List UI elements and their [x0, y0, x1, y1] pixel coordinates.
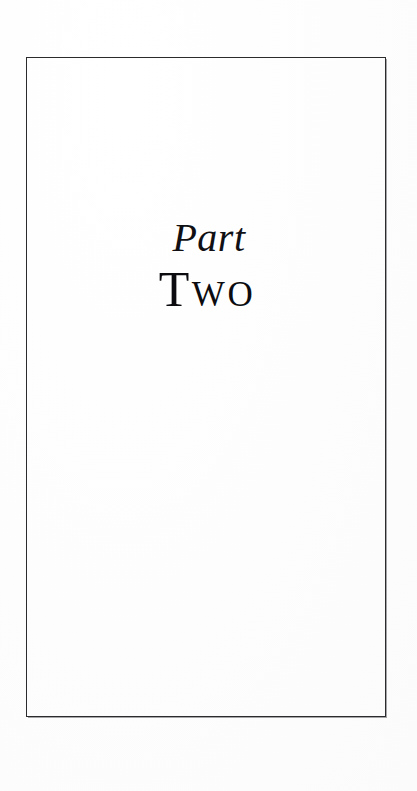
part-label: Part	[30, 218, 388, 258]
page-rule-frame: Part Two	[26, 57, 386, 717]
part-number-word: Two	[28, 262, 386, 316]
blank-body-area	[54, 358, 354, 641]
part-title-block: Part Two	[27, 218, 385, 316]
book-page: Part Two	[0, 0, 417, 791]
